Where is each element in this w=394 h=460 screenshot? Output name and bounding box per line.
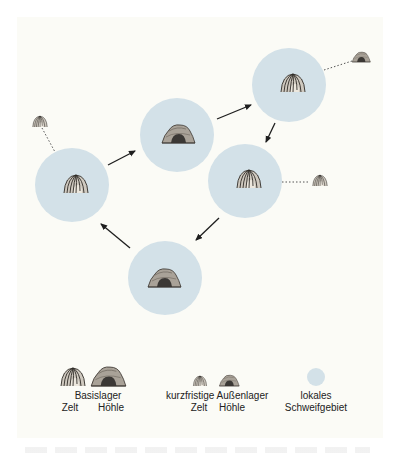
legend-short-term-tent-label: Zelt xyxy=(184,402,214,414)
legend-base-cave-icon xyxy=(91,367,126,386)
legend-short-term-title: kurzfristige Außenlager xyxy=(166,390,266,402)
legend-outpost-cave-icon xyxy=(219,375,239,386)
arrow-n3-to-n4 xyxy=(266,123,275,142)
arrow-n1-to-n2 xyxy=(108,151,135,165)
legend-base-camp-title: Basislager xyxy=(62,390,134,402)
arrow-n2-to-n3 xyxy=(217,105,251,119)
connector-n1-outpost xyxy=(42,128,55,152)
legend-range-line2: Schweifgebiet xyxy=(276,402,356,414)
outpost-cave-icon xyxy=(352,52,370,62)
legend-range-swatch xyxy=(307,368,325,386)
legend-short-term-cave-label: Höhle xyxy=(214,402,250,414)
cut-off-caption-text xyxy=(25,447,370,453)
connector-n3-outpost xyxy=(324,61,352,70)
outpost-tent-icon xyxy=(33,116,47,127)
legend-base-tent-label: Zelt xyxy=(55,402,85,414)
legend-icons xyxy=(61,367,325,386)
outpost-tent-icon xyxy=(313,175,327,186)
arrow-n5-to-n1 xyxy=(101,224,130,248)
legend-range-line1: lokales xyxy=(281,390,351,402)
legend-base-tent-icon xyxy=(61,368,85,386)
legend-base-cave-label: Höhle xyxy=(93,402,129,414)
arrow-n4-to-n5 xyxy=(196,218,219,240)
legend-outpost-tent-icon xyxy=(193,376,206,386)
